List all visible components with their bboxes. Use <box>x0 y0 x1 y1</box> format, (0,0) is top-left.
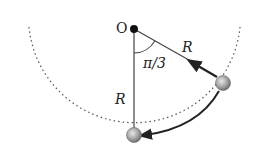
ball-start-position <box>216 76 231 91</box>
angle-arc <box>134 41 155 53</box>
motion-arrow <box>145 91 219 135</box>
slanted-radius-label: R <box>181 39 193 55</box>
pivot-point <box>130 25 138 33</box>
pivot-label: O <box>116 20 127 36</box>
vertical-radius-label: R <box>114 91 126 107</box>
ball-end-position <box>127 128 142 143</box>
angle-label: π/3 <box>142 55 166 71</box>
tension-arrow <box>193 63 217 77</box>
pendulum-diagram: O R π/3 R <box>0 0 260 162</box>
